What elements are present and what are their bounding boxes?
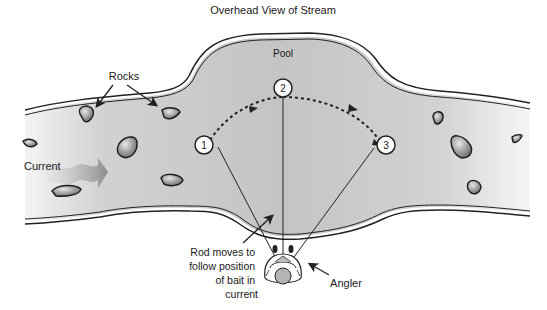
svg-text:2: 2 <box>280 83 286 94</box>
rock <box>161 174 183 185</box>
position-marker-3: 3 <box>377 136 395 154</box>
diagram-title: Overhead View of Stream <box>210 4 336 16</box>
rock <box>433 112 443 124</box>
svg-text:3: 3 <box>383 140 389 151</box>
current-label: Current <box>24 160 61 172</box>
stream-diagram: Overhead View of Stream Rocks Current Po… <box>0 0 547 310</box>
pool-label: Pool <box>273 48 293 59</box>
rod-note-label: Rod moves to follow position of bait in … <box>189 246 258 300</box>
position-marker-2: 2 <box>274 79 292 97</box>
angler-label: Angler <box>330 277 362 289</box>
svg-text:1: 1 <box>201 140 207 151</box>
angler-arrow <box>310 264 329 275</box>
position-marker-1: 1 <box>195 136 213 154</box>
rock <box>467 180 481 193</box>
rocks-label: Rocks <box>109 70 140 82</box>
